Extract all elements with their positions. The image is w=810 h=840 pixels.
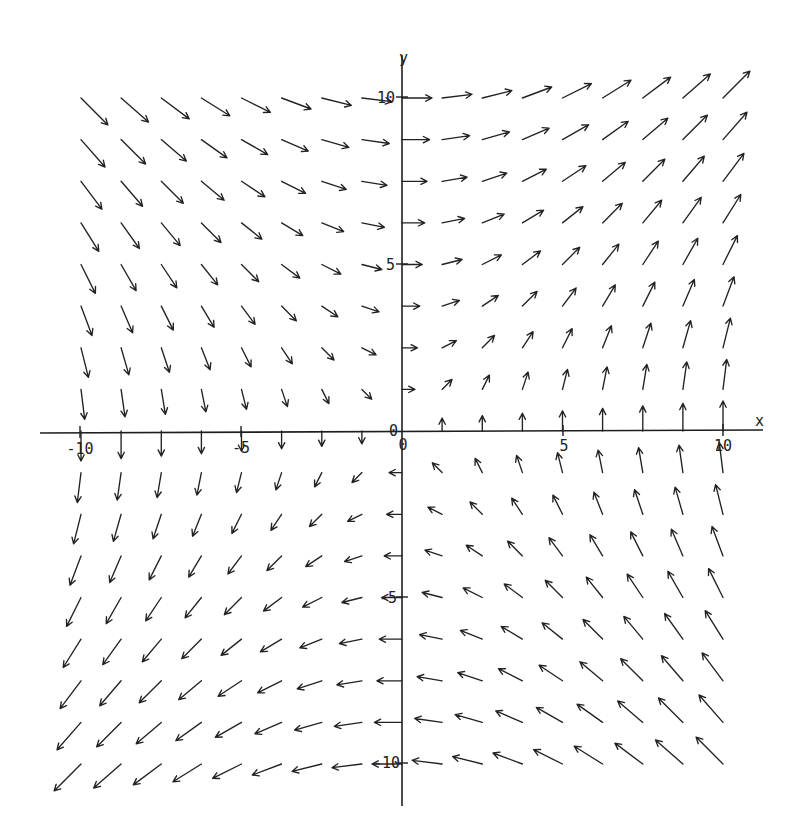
y-axis-label: y bbox=[399, 49, 408, 67]
vector-field-plot: -10 -5 0 5 10 10 5 0 -5 -10 x y bbox=[0, 0, 810, 840]
y-tick-label: 5 bbox=[386, 256, 395, 274]
plot-background bbox=[0, 0, 810, 840]
y-tick-label: 0 bbox=[389, 422, 398, 440]
x-tick-label: 5 bbox=[559, 437, 568, 455]
x-tick-label: -10 bbox=[66, 440, 93, 458]
x-tick-label: 10 bbox=[714, 437, 732, 455]
x-axis-label: x bbox=[755, 412, 764, 430]
x-tick-label: 0 bbox=[398, 436, 407, 454]
y-tick-label: -10 bbox=[373, 754, 400, 772]
